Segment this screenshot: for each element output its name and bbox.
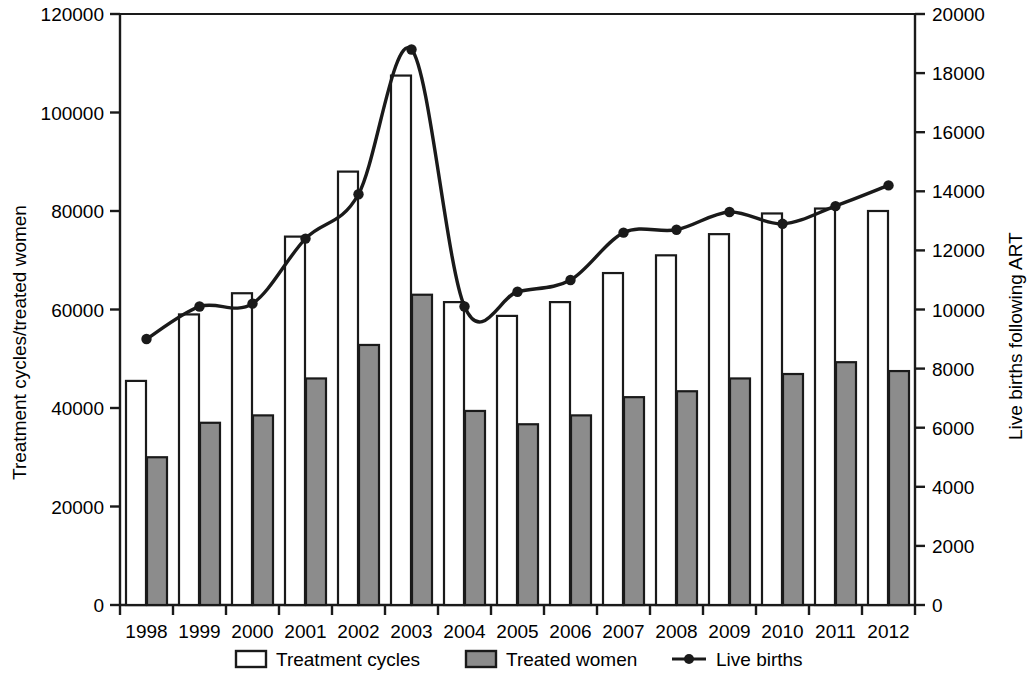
legend-label-treatment-cycles: Treatment cycles (276, 649, 420, 670)
y-left-tick-label: 0 (93, 595, 104, 616)
bar-treated-women-2008 (677, 391, 697, 605)
bar-treated-women-2003 (412, 295, 432, 605)
live-births-point-2008 (671, 225, 681, 235)
y-axis-left-title: Treatment cycles/treated women (9, 205, 30, 480)
y-right-tick-label: 10000 (932, 300, 985, 321)
live-births-point-2007 (618, 227, 628, 237)
bar-treated-women-2000 (253, 415, 273, 605)
art-treatment-chart: Treatment cycles/treated women Live birt… (0, 0, 1035, 681)
x-axis-ticks (120, 605, 915, 615)
open-box-swatch-icon (236, 651, 266, 667)
x-axis-label-2002: 2002 (337, 621, 379, 642)
chart-legend: Treatment cycles Treated women Live birt… (236, 649, 803, 670)
line-marker-dot-icon (684, 654, 694, 664)
live-births-point-2002 (353, 189, 363, 199)
x-axis-label-2007: 2007 (602, 621, 644, 642)
y-axis-right-ticks: 0200040006000800010000120001400016000180… (915, 4, 985, 616)
bar-treatment-cycles-2001 (285, 237, 305, 605)
y-left-tick-label: 120000 (41, 4, 104, 25)
x-axis-label-2011: 2011 (815, 621, 856, 642)
legend-label-treated-women: Treated women (506, 649, 637, 670)
legend-item-treated-women[interactable]: Treated women (466, 649, 637, 670)
y-right-tick-label: 12000 (932, 240, 985, 261)
bar-treatment-cycles-2000 (232, 293, 252, 605)
x-axis-label-2003: 2003 (390, 621, 432, 642)
x-axis-label-2008: 2008 (655, 621, 697, 642)
live-births-point-2005 (512, 287, 522, 297)
y-right-tick-label: 20000 (932, 4, 985, 25)
bar-treatment-cycles-2004 (444, 302, 464, 605)
bar-treated-women-2011 (836, 362, 856, 605)
y-right-tick-label: 2000 (932, 536, 974, 557)
bar-treated-women-2009 (730, 378, 750, 605)
bar-treated-women-2006 (571, 415, 591, 605)
bar-treatment-cycles-2010 (762, 213, 782, 605)
bar-treatment-cycles-2005 (497, 316, 517, 605)
legend-label-live-births: Live births (716, 649, 803, 670)
y-left-tick-label: 80000 (51, 201, 104, 222)
x-axis-label-2000: 2000 (231, 621, 273, 642)
x-axis-labels: 1998199920002001200220032004200520062007… (125, 621, 909, 642)
y-right-tick-label: 14000 (932, 181, 985, 202)
live-births-point-2012 (883, 180, 893, 190)
bar-treated-women-2010 (783, 374, 803, 605)
bar-treatment-cycles-2003 (391, 76, 411, 605)
bar-treatment-cycles-2008 (656, 255, 676, 605)
live-births-point-2001 (300, 233, 310, 243)
y-left-tick-label: 60000 (51, 300, 104, 321)
live-births-point-2010 (777, 219, 787, 229)
x-axis-label-2012: 2012 (867, 621, 909, 642)
live-births-point-2003 (406, 44, 416, 54)
chart-container: Treatment cycles/treated women Live birt… (0, 0, 1035, 681)
bar-treatment-cycles-2002 (338, 172, 358, 605)
y-right-tick-label: 0 (932, 595, 943, 616)
x-axis-label-1998: 1998 (125, 621, 167, 642)
bar-treatment-cycles-2011 (815, 209, 835, 605)
live-births-point-2006 (565, 275, 575, 285)
y-right-tick-label: 8000 (932, 359, 974, 380)
bar-treatment-cycles-1998 (126, 381, 146, 605)
bar-treated-women-2002 (359, 345, 379, 605)
x-axis-label-2001: 2001 (284, 621, 326, 642)
bar-treated-women-2004 (465, 411, 485, 605)
live-births-point-2009 (724, 207, 734, 217)
live-births-point-2000 (247, 298, 257, 308)
bar-series-treatment-cycles (126, 76, 888, 605)
live-births-point-2011 (830, 201, 840, 211)
x-axis-label-2004: 2004 (443, 621, 486, 642)
bar-treatment-cycles-2006 (550, 302, 570, 605)
live-births-point-2004 (459, 301, 469, 311)
y-axis-right-title: Live births following ART (1005, 232, 1026, 440)
bar-treated-women-1998 (147, 457, 167, 605)
filled-box-swatch-icon (466, 651, 496, 667)
y-left-tick-label: 20000 (51, 497, 104, 518)
bar-series-treated-women (147, 295, 909, 605)
bar-treated-women-1999 (200, 423, 220, 605)
bar-treated-women-2005 (518, 424, 538, 605)
bar-treated-women-2001 (306, 378, 326, 605)
x-axis-label-1999: 1999 (178, 621, 220, 642)
bar-treatment-cycles-2009 (709, 234, 729, 605)
legend-item-live-births[interactable]: Live births (672, 649, 803, 670)
y-axis-left-ticks: 020000400006000080000100000120000 (41, 4, 120, 616)
x-axis-label-2010: 2010 (761, 621, 803, 642)
y-right-tick-label: 16000 (932, 122, 985, 143)
x-axis-label-2009: 2009 (708, 621, 750, 642)
bar-treatment-cycles-2007 (603, 273, 623, 605)
live-births-point-1999 (194, 301, 204, 311)
y-right-tick-label: 6000 (932, 418, 974, 439)
x-axis-label-2005: 2005 (496, 621, 538, 642)
x-axis-label-2006: 2006 (549, 621, 591, 642)
y-left-tick-label: 100000 (41, 103, 104, 124)
live-births-point-1998 (141, 334, 151, 344)
legend-item-treatment-cycles[interactable]: Treatment cycles (236, 649, 420, 670)
bar-treated-women-2007 (624, 397, 644, 605)
y-right-tick-label: 4000 (932, 477, 974, 498)
bar-treated-women-2012 (889, 371, 909, 605)
bar-treatment-cycles-1999 (179, 314, 199, 605)
y-right-tick-label: 18000 (932, 63, 985, 84)
bar-treatment-cycles-2012 (868, 211, 888, 605)
y-left-tick-label: 40000 (51, 398, 104, 419)
